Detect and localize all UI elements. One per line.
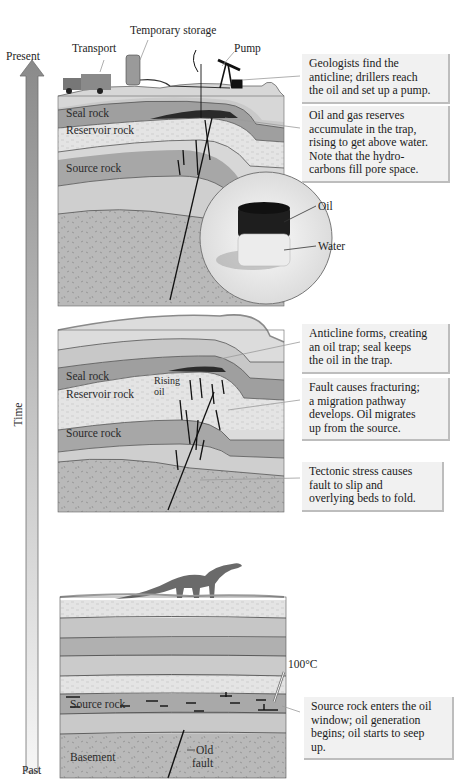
callout-tectonic-stress: Tectonic stress causes fault to slip and… [302, 462, 444, 512]
oil-water-sample-inset [200, 172, 332, 304]
transport-label: Transport [72, 42, 116, 55]
reservoir-rock-label: Reservoir rock [66, 388, 134, 401]
panel-middle-cross-section [58, 315, 300, 512]
water-label: Water [318, 240, 345, 253]
reservoir-rock-label: Reservoir rock [66, 124, 134, 137]
callout-reserves-accumulate: Oil and gas reserves accumulate in the t… [302, 106, 450, 183]
callout-anticline-forms: Anticline forms, creating an oil trap; s… [302, 324, 450, 374]
old-fault-label-line2: fault [192, 757, 213, 770]
temporary-storage-label: Temporary storage [130, 24, 216, 37]
source-rock-label: Source rock [66, 427, 121, 440]
old-fault-label-line1: Old [196, 744, 213, 757]
timeline-past-label: Past [22, 764, 41, 777]
callout-oil-window: Source rock enters the oil window; oil g… [304, 697, 454, 760]
oil-label: Oil [318, 200, 333, 213]
rising-oil-label-line1: Rising [154, 375, 180, 386]
pump-label: Pump [234, 42, 261, 55]
source-rock-label: Source rock [66, 162, 121, 175]
rising-oil-label-line2: oil [154, 386, 165, 397]
timeline-present-label: Present [6, 50, 40, 63]
callout-drillers-pump: Geologists find the anticline; drillers … [302, 54, 450, 104]
storage-tank-icon [126, 55, 230, 88]
source-rock-label: Source rock [70, 698, 125, 711]
timeline-axis-label: Time [12, 395, 25, 435]
seal-rock-label: Seal rock [66, 107, 109, 120]
callout-fault-fracturing: Fault causes fracturing; a migration pat… [302, 378, 450, 441]
temperature-label: 100°C [288, 658, 318, 671]
seal-rock-label: Seal rock [66, 370, 109, 383]
basement-label: Basement [70, 751, 115, 764]
panel-past-cross-section [60, 563, 300, 778]
